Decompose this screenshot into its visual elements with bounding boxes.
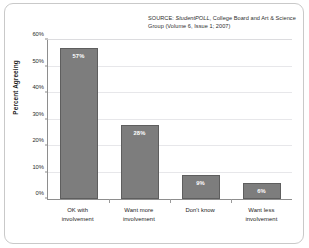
bar-slot: 9% [170, 40, 231, 199]
y-tick-label: 60% [32, 31, 44, 37]
y-tick-label: 50% [32, 58, 44, 64]
x-axis-label-line: Want less [231, 206, 292, 215]
x-axis-label-line: OK with [47, 206, 108, 215]
bar[interactable]: 28% [121, 125, 159, 199]
bar-chart-figure: SOURCE: StudentPOLL, College Board and A… [0, 0, 309, 248]
x-axis-label-line: Don't know [170, 206, 231, 215]
source-note: SOURCE: StudentPOLL, College Board and A… [148, 14, 298, 31]
category-tick [231, 199, 232, 203]
source-note-prefix: SOURCE: [148, 15, 175, 21]
category-tick [170, 199, 171, 203]
bar-value-label: 9% [183, 180, 219, 186]
y-tick-label: 0% [36, 190, 44, 196]
x-axis-labels: OK withinvolvementWant moreinvolvementDo… [47, 206, 292, 223]
x-axis-label-line: involvement [108, 215, 169, 224]
y-tick-label: 30% [32, 111, 44, 117]
bar-slot: 28% [109, 40, 170, 199]
x-axis-label: Don't know [170, 206, 231, 223]
x-axis-label-line: Want more [108, 206, 169, 215]
source-note-publication: StudentPOLL [175, 15, 209, 21]
x-axis-label-line: involvement [47, 215, 108, 224]
bar[interactable]: 57% [60, 48, 98, 199]
x-axis-label-line: involvement [231, 215, 292, 224]
bar-slot: 57% [48, 40, 109, 199]
plot-wrap: 0%10%20%30%40%50%60% 57%28%9%6% [47, 40, 292, 200]
y-tick-label: 10% [32, 164, 44, 170]
bar[interactable]: 6% [243, 183, 281, 199]
y-tick-label: 40% [32, 84, 44, 90]
bar-value-label: 57% [61, 53, 97, 59]
bar-value-label: 28% [122, 130, 158, 136]
bar[interactable]: 9% [182, 175, 220, 199]
x-axis-label: Want moreinvolvement [108, 206, 169, 223]
x-axis-label: Want lessinvolvement [231, 206, 292, 223]
category-tick [109, 199, 110, 203]
bar-value-label: 6% [244, 188, 280, 194]
y-axis-title: Percent Agreeing [12, 43, 19, 133]
bars-group: 57%28%9%6% [48, 40, 292, 199]
y-tick-label: 20% [32, 137, 44, 143]
x-axis-label: OK withinvolvement [47, 206, 108, 223]
bar-slot: 6% [231, 40, 292, 199]
plot-area: 0%10%20%30%40%50%60% 57%28%9%6% [47, 40, 292, 200]
